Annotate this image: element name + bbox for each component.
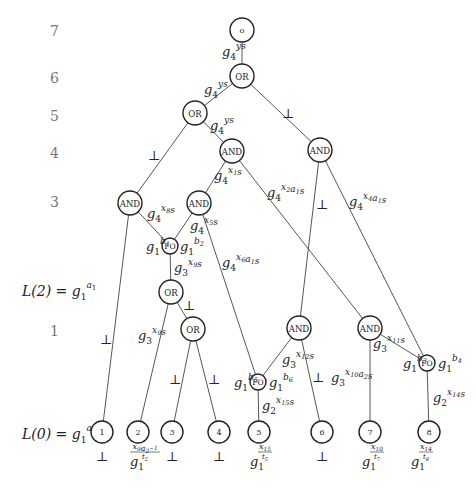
tree-edge: [239, 160, 362, 318]
leaf-label-8: g1x14t8: [411, 442, 433, 472]
svg-text:g4ys: g4ys: [210, 115, 234, 136]
svg-text:AND: AND: [119, 199, 141, 209]
svg-text:t8: t8: [423, 453, 430, 462]
svg-text:1: 1: [99, 428, 104, 437]
node-and3l: AND: [118, 191, 142, 215]
leaf-label-1: ⊥: [96, 449, 108, 464]
svg-text:g3x9s: g3x9s: [174, 257, 202, 278]
leaf-labels: ⊥g1x9a2−1t2⊥⊥g1x15t5⊥g1x10t7g1x14t8: [96, 442, 433, 472]
edge-label: g4x5s: [190, 215, 218, 236]
svg-text:g4x5s: g4x5s: [190, 215, 218, 236]
fanout-labels: g1b1g1b2g1b5g1b6g1b3g1b4: [146, 236, 462, 393]
svg-text:g2x14s: g2x14s: [433, 387, 465, 408]
node-or2b: OR: [181, 317, 205, 341]
node-and4m: AND: [220, 139, 244, 163]
bottom-symbol: ⊥: [169, 372, 181, 387]
edge-label: ⊥: [169, 372, 181, 387]
bottom-symbol: ⊥: [183, 298, 195, 313]
edge-label: ⊥: [100, 332, 112, 347]
edge-label: g3x9s: [174, 257, 202, 278]
level-number: 6: [50, 70, 59, 86]
bottom-symbol: ⊥: [213, 449, 225, 464]
leaf-label-6: ⊥: [316, 449, 328, 464]
svg-text:OR: OR: [186, 325, 200, 335]
edge-label: ⊥: [183, 298, 195, 313]
edge-label: g4ys: [222, 41, 246, 62]
svg-text:g4x2a1s: g4x2a1s: [267, 182, 305, 203]
node-l3: 3: [161, 421, 183, 443]
level-labels: 76543L(2) = g1a11L(0) = g1a2: [21, 23, 96, 445]
svg-text:x15: x15: [259, 442, 271, 452]
svg-text:AND: AND: [309, 146, 331, 156]
svg-text:t7: t7: [374, 453, 381, 462]
node-l8: 8: [418, 421, 440, 443]
svg-text:AND: AND: [188, 199, 210, 209]
node-and4r: AND: [308, 138, 332, 162]
edge-label: g4x8s: [147, 203, 175, 224]
bottom-symbol: ⊥: [208, 372, 220, 387]
level-number: 7: [50, 23, 59, 39]
node-l2: 2: [127, 421, 149, 443]
svg-text:t2: t2: [142, 453, 148, 462]
access-tree-diagram: 76543L(2) = g1a11L(0) = g1a2 g4ysg4ys⊥⊥g…: [0, 0, 476, 488]
fanout-exponent-label: g1b6: [269, 372, 293, 393]
node-root: o: [230, 18, 254, 42]
bottom-symbol: ⊥: [100, 332, 112, 347]
node-l1: 1: [91, 421, 113, 443]
svg-text:g4ys: g4ys: [222, 41, 246, 62]
bottom-symbol: ⊥: [316, 449, 328, 464]
edge-label: g3x12s: [282, 349, 314, 370]
leaf-label-4: ⊥: [213, 449, 225, 464]
svg-text:AND: AND: [221, 147, 243, 157]
svg-text:g3x10a2s: g3x10a2s: [331, 367, 373, 388]
edge-label: g2x15s: [262, 395, 294, 416]
svg-text:o: o: [240, 26, 245, 35]
tree-edge: [141, 304, 169, 422]
node-l7: 7: [359, 421, 381, 443]
edge-label: g3x10a2s: [331, 367, 373, 388]
svg-text:6: 6: [319, 428, 324, 437]
svg-text:g4x1s: g4x1s: [214, 165, 242, 186]
node-and3m: AND: [187, 191, 211, 215]
edge-label: ⊥: [208, 372, 220, 387]
bottom-symbol: ⊥: [166, 449, 178, 464]
node-l5: 5: [248, 421, 270, 443]
node-l6: 6: [311, 421, 333, 443]
svg-text:OR: OR: [235, 72, 249, 82]
tree-edge: [103, 215, 128, 421]
tree-edge: [258, 390, 259, 421]
svg-text:AND: AND: [288, 324, 310, 334]
svg-text:5: 5: [256, 428, 261, 437]
svg-text:g4x8s: g4x8s: [147, 203, 175, 224]
svg-text:4: 4: [216, 428, 221, 437]
bottom-symbol: ⊥: [282, 106, 294, 121]
leaf-label-3: ⊥: [166, 449, 178, 464]
edge-label: ⊥: [148, 148, 160, 163]
level-number: 4: [50, 145, 59, 161]
tree-edge: [427, 371, 428, 421]
svg-text:OR: OR: [164, 288, 178, 298]
node-or5: OR: [183, 101, 207, 125]
tree-edges: [103, 42, 428, 421]
svg-text:g2x15s: g2x15s: [262, 395, 294, 416]
svg-text:g1b6: g1b6: [269, 372, 293, 393]
leaf-label-2: g1x9a2−1t2: [130, 442, 160, 472]
bottom-symbol: ⊥: [312, 370, 324, 385]
edge-label: g3x9s: [138, 325, 166, 346]
svg-text:8: 8: [426, 428, 431, 437]
edge-label: ⊥: [282, 106, 294, 121]
leaf-label-5: g1x15t5: [250, 442, 272, 472]
svg-text:g1b2: g1b2: [180, 236, 204, 257]
edge-label: g2x14s: [433, 387, 465, 408]
svg-text:OR: OR: [188, 109, 202, 119]
tree-edge: [170, 254, 171, 280]
svg-text:t5: t5: [262, 453, 268, 462]
level-number: 3: [50, 194, 59, 210]
level-equation: L(2) = g1a1: [21, 280, 96, 302]
node-and1b: AND: [358, 316, 382, 340]
edge-label: g4x4a1s: [349, 191, 387, 212]
node-and1a: AND: [287, 316, 311, 340]
svg-text:AND: AND: [359, 324, 381, 334]
bottom-symbol: ⊥: [316, 197, 328, 212]
edge-label: g4x1s: [214, 165, 242, 186]
